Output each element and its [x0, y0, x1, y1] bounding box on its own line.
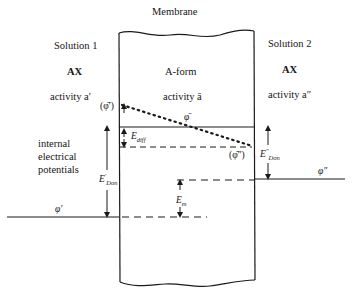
solution1-title: Solution 1: [54, 40, 97, 52]
membrane-bottom-edge: [120, 280, 255, 286]
e-diff-label: Ediff: [131, 130, 145, 142]
membrane-title: Membrane: [152, 6, 197, 18]
phi-bar-dprime-label: (φ̄″): [229, 149, 245, 161]
phi-dprime-label: φ″: [318, 165, 327, 177]
membrane-form: A-form: [165, 66, 197, 78]
e-don-prime-label: E′Don: [99, 173, 117, 185]
solution2-species: AX: [282, 64, 297, 76]
membrane-left-wall: [119, 33, 120, 282]
phi-bar-prime-label: (φ̄′): [100, 100, 114, 112]
membrane-right-wall: [254, 31, 255, 280]
membrane-activity: activity ā: [163, 91, 202, 103]
side-label-line2: electrical: [38, 151, 76, 163]
solution1-species: AX: [67, 66, 82, 78]
solution2-title: Solution 2: [268, 38, 311, 50]
phi-prime-label: φ′: [55, 203, 62, 215]
solution2-activity: activity a″: [268, 89, 311, 101]
solution1-activity: activity a′: [50, 91, 91, 103]
side-label-line1: internal: [38, 138, 70, 150]
e-don-dprime-label: E″Don: [260, 148, 280, 160]
membrane-top-edge: [119, 30, 254, 37]
e-m-label: Em: [176, 194, 187, 206]
phi-bar-label: φ̄: [184, 111, 189, 123]
side-label-line3: potentials: [38, 164, 79, 176]
